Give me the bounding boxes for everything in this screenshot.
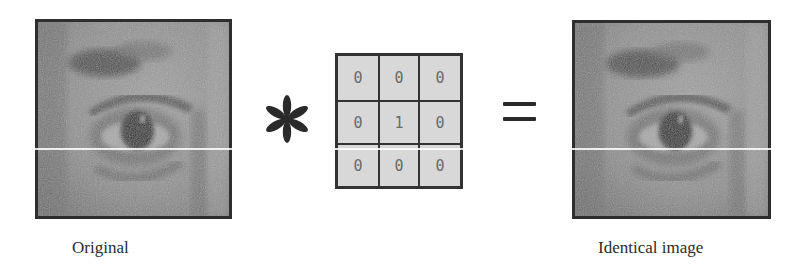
- eye-photo-icon: [575, 23, 768, 216]
- equals-bar-bottom: [503, 117, 536, 121]
- identical-output-image: [572, 20, 771, 219]
- equals-operator-icon: [503, 101, 536, 122]
- kernel-cell: 0: [420, 102, 460, 145]
- identical-image-caption: Identical image: [598, 238, 703, 258]
- kernel-cell: 0: [420, 56, 460, 102]
- original-caption: Original: [72, 238, 129, 258]
- kernel-cell: 0: [380, 56, 420, 102]
- equals-bar-top: [503, 102, 536, 106]
- kernel-cell: 0: [338, 145, 380, 186]
- kernel-cell: 0: [380, 145, 420, 186]
- eye-photo-icon: [38, 22, 229, 216]
- original-image: [35, 19, 232, 219]
- kernel-cell: 0: [420, 145, 460, 186]
- convolution-operator-icon: [264, 94, 310, 144]
- kernel-cell: 0: [338, 102, 380, 145]
- kernel-cell: 0: [338, 56, 380, 102]
- identity-kernel-grid: 0 0 0 0 1 0 0 0 0: [335, 53, 463, 189]
- kernel-cell-center: 1: [380, 102, 420, 145]
